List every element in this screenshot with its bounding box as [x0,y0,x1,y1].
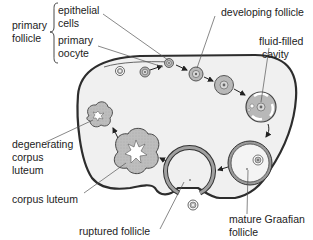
label-developing-follicle: developing follicle [221,6,304,18]
label-corpus-luteum: corpus luteum [12,193,78,205]
antral-follicle [246,92,276,122]
primary-follicle-3 [165,59,174,68]
graafian-follicle [228,141,272,185]
label-mature-graafian-follicle: mature Graafian follicle [229,213,308,238]
label-primary-follicle: primary follicle [12,19,50,44]
label-degenerating-corpus-luteum: degenerating corpus luteum [12,138,76,176]
developing-follicle-large [215,76,234,95]
developing-follicle-small [189,67,203,81]
primary-follicle-2 [140,67,150,77]
label-epithelial-cells: epithelial cells [58,4,102,29]
label-ruptured-follicle: ruptured follicle [79,225,150,237]
ovary-diagram: primary follicle epithelial cells primar… [0,0,313,240]
primary-follicle-bracket [50,3,58,63]
label-primary-oocyte: primary oocyte [58,34,96,59]
released-oocyte [188,200,198,210]
primary-follicle-1 [116,67,125,76]
label-fluid-filled-cavity: fluid-filled cavity [259,35,306,60]
